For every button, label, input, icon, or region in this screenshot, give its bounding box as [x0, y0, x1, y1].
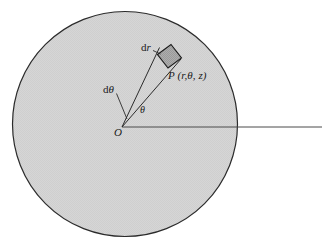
polar-coordinate-figure: dr dθ θ O P (r,θ, z): [0, 0, 328, 250]
dr-label: dr: [141, 42, 151, 53]
dr-variable-r: r: [147, 41, 151, 53]
dtheta-label: dθ: [103, 84, 114, 95]
dtheta-variable-theta: θ: [109, 83, 115, 95]
point-label: P (r,θ, z): [168, 70, 207, 81]
origin-label: O: [114, 127, 122, 138]
figure-canvas: [0, 0, 328, 250]
theta-angle-label: θ: [140, 105, 145, 115]
